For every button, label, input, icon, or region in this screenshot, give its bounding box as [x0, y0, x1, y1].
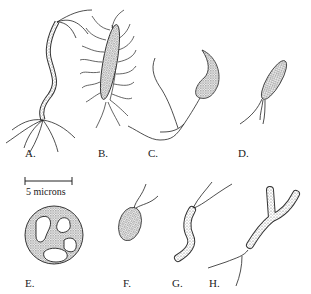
organism-a [6, 10, 92, 152]
label-d: D. [238, 147, 249, 159]
organism-c [128, 50, 219, 140]
organism-g [178, 182, 232, 258]
organism-e [25, 206, 83, 264]
label-f: F. [123, 277, 131, 289]
organism-f [115, 184, 158, 243]
label-b: B. [98, 147, 108, 159]
organism-d [240, 57, 291, 124]
label-e: E. [25, 277, 34, 289]
organism-b [80, 10, 136, 128]
label-h: H. [209, 277, 220, 289]
label-c: C. [148, 147, 158, 159]
scale-bar-label: 5 microns [26, 186, 66, 197]
microorganism-illustration: A. B. C. D. 5 microns E. F. G. H. [0, 0, 311, 294]
organism-h [208, 190, 296, 286]
label-g: G. [172, 277, 183, 289]
label-a: A. [25, 147, 36, 159]
scale-bar [25, 177, 72, 185]
